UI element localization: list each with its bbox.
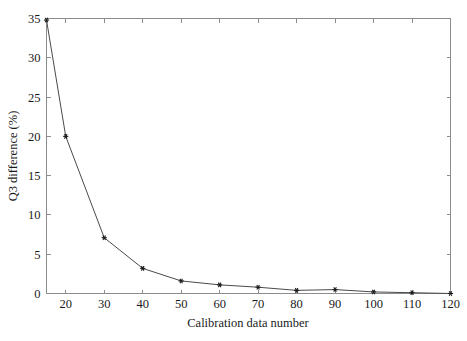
x-tick-label: 30 — [98, 297, 111, 311]
x-tick-label: 90 — [329, 297, 342, 311]
x-tick-label: 40 — [136, 297, 149, 311]
chart-page: 2030405060708090100110120 05101520253035… — [0, 0, 467, 341]
chart-background — [0, 0, 467, 341]
x-tick-label: 20 — [59, 297, 72, 311]
y-tick-label: 10 — [28, 208, 41, 222]
line-chart: 2030405060708090100110120 05101520253035… — [0, 0, 467, 341]
y-tick-label: 35 — [28, 12, 41, 26]
y-tick-label: 15 — [28, 169, 41, 183]
x-axis-title: Calibration data number — [187, 316, 309, 330]
y-tick-label: 20 — [28, 130, 41, 144]
y-tick-label: 0 — [34, 287, 40, 301]
y-tick-label: 5 — [34, 248, 40, 262]
x-tick-label: 80 — [290, 297, 303, 311]
x-tick-label: 50 — [175, 297, 188, 311]
y-tick-label: 25 — [28, 91, 41, 105]
x-tick-label: 100 — [364, 297, 383, 311]
x-tick-label: 60 — [213, 297, 226, 311]
x-tick-label: 70 — [252, 297, 265, 311]
y-axis-title: Q3 difference (%) — [6, 111, 20, 202]
x-tick-label: 110 — [403, 297, 421, 311]
x-tick-label: 120 — [441, 297, 460, 311]
y-tick-label: 30 — [28, 51, 41, 65]
